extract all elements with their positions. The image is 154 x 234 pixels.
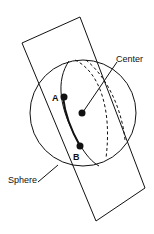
- point-a-label: A: [52, 93, 59, 103]
- plane-rectangle: [22, 17, 145, 221]
- arc-segment-a-b: [63, 97, 80, 146]
- sphere-leader-line: [38, 165, 58, 182]
- great-circle-back-arc-2: [86, 60, 125, 140]
- point-b: [77, 143, 84, 150]
- sphere-plane-diagram: Center A B Sphere: [0, 0, 154, 234]
- center-label: Center: [116, 54, 143, 64]
- point-a: [61, 94, 68, 101]
- sphere-label: Sphere: [8, 175, 37, 185]
- point-b-label: B: [73, 152, 80, 162]
